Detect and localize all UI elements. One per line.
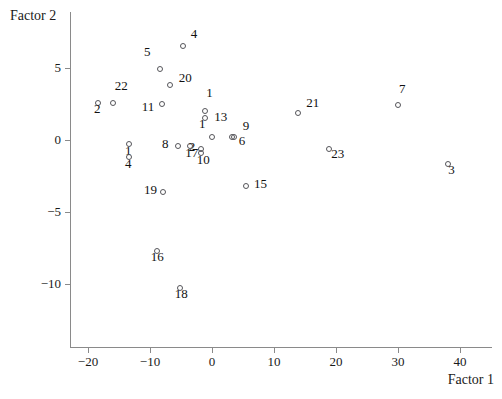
data-point[interactable] <box>180 43 186 49</box>
y-axis-line <box>70 12 71 348</box>
data-point[interactable] <box>209 134 215 140</box>
data-point-label: 10 <box>197 152 210 168</box>
y-tick-label: 5 <box>55 60 62 76</box>
data-point-label: 20 <box>179 70 192 86</box>
y-tick-label: −5 <box>47 204 61 220</box>
y-axis-title: Factor 2 <box>10 8 56 24</box>
x-tick-mark <box>398 348 399 353</box>
data-point-label: 8 <box>162 136 169 152</box>
data-point-label: 2 <box>189 139 196 155</box>
x-tick-label: 20 <box>330 354 343 370</box>
y-tick-mark <box>65 284 70 285</box>
data-point-label: 1 <box>206 85 213 101</box>
data-point-label: 5 <box>144 44 151 60</box>
data-point[interactable] <box>229 134 235 140</box>
data-point-label: 4 <box>191 26 198 42</box>
data-point-label: 3 <box>448 162 455 178</box>
y-tick-mark <box>65 212 70 213</box>
x-axis-title: Factor 1 <box>448 372 494 388</box>
data-point-label: 22 <box>115 78 128 94</box>
data-point-label: 15 <box>254 176 267 192</box>
data-point[interactable] <box>243 183 249 189</box>
data-point-label: 6 <box>239 133 246 149</box>
x-tick-label: −10 <box>140 354 160 370</box>
data-point-label: 4 <box>125 156 132 172</box>
data-point[interactable] <box>110 100 116 106</box>
x-tick-label: 10 <box>268 354 281 370</box>
data-point-label: 18 <box>175 286 188 302</box>
x-tick-label: 30 <box>392 354 405 370</box>
data-point[interactable] <box>202 108 208 114</box>
data-point-label: 21 <box>306 95 319 111</box>
data-point[interactable] <box>160 189 166 195</box>
data-point-label: 11 <box>142 99 155 115</box>
x-tick-label: 0 <box>209 354 216 370</box>
data-point[interactable] <box>167 82 173 88</box>
data-point-label: 9 <box>243 118 250 134</box>
x-tick-mark <box>274 348 275 353</box>
data-point[interactable] <box>159 101 165 107</box>
data-point-label: 13 <box>214 109 227 125</box>
y-tick-label: −10 <box>41 276 61 292</box>
data-point[interactable] <box>175 143 181 149</box>
x-axis-line <box>70 347 492 348</box>
x-tick-mark <box>88 348 89 353</box>
y-tick-mark <box>65 140 70 141</box>
scatter-plot-figure: Factor 2 Factor 1 −20−10010203040 50−5−1… <box>0 0 502 399</box>
x-tick-mark <box>336 348 337 353</box>
data-point[interactable] <box>295 110 301 116</box>
data-point-label: 1 <box>199 116 206 132</box>
data-point-label: 19 <box>144 182 157 198</box>
y-tick-label: 0 <box>55 132 62 148</box>
x-tick-label: −20 <box>78 354 98 370</box>
data-point-label: 16 <box>151 249 164 265</box>
y-tick-mark <box>65 68 70 69</box>
x-tick-label: 40 <box>454 354 467 370</box>
data-point-label: 7 <box>399 81 406 97</box>
data-point-label: 2 <box>94 101 101 117</box>
data-point-label: 23 <box>331 146 344 162</box>
data-point[interactable] <box>395 102 401 108</box>
x-tick-mark <box>150 348 151 353</box>
x-tick-mark <box>460 348 461 353</box>
x-tick-mark <box>212 348 213 353</box>
data-point[interactable] <box>157 66 163 72</box>
